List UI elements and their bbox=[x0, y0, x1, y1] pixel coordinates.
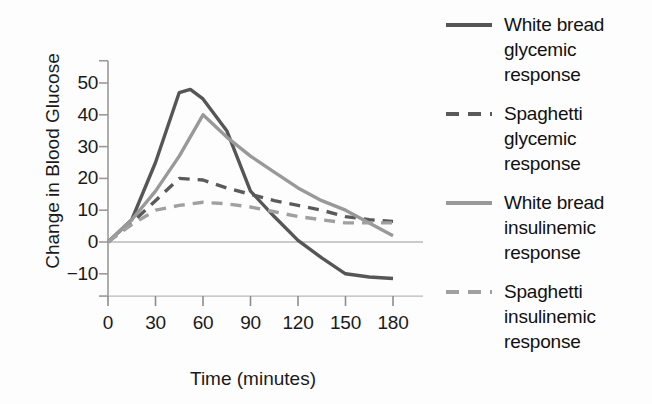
legend-swatch-solid-line-icon bbox=[446, 14, 492, 36]
y-tick-label: 10 bbox=[30, 200, 98, 219]
y-tick-label: 30 bbox=[30, 137, 98, 156]
legend-swatch-solid-line-icon bbox=[446, 192, 492, 214]
legend-item-4[interactable]: Spaghetti insulinemic response bbox=[446, 279, 652, 354]
series-line-1 bbox=[108, 89, 393, 278]
y-axis-title: Change in Blood Glucose bbox=[42, 11, 64, 311]
y-tick-label: 20 bbox=[30, 168, 98, 187]
legend-item-1[interactable]: White bread glycemic response bbox=[446, 12, 652, 87]
x-tick-label: 180 bbox=[363, 313, 423, 332]
y-tick-label: 0 bbox=[30, 232, 98, 251]
legend-item-3[interactable]: White bread insulinemic response bbox=[446, 190, 652, 265]
legend-label: White bread insulinemic response bbox=[504, 190, 604, 265]
y-tick-label: −10 bbox=[30, 264, 98, 283]
plot-area: −1001020304050 0306090120150180 Time (mi… bbox=[0, 0, 430, 404]
y-tick-label: 50 bbox=[30, 73, 98, 92]
legend-swatch-dashed-line-icon bbox=[446, 103, 492, 125]
y-tick-label: 40 bbox=[30, 105, 98, 124]
legend-swatch-dashed-line-icon bbox=[446, 281, 492, 303]
legend-label: Spaghetti insulinemic response bbox=[504, 279, 596, 354]
legend-label: Spaghetti glycemic response bbox=[504, 101, 583, 176]
legend-item-2[interactable]: Spaghetti glycemic response bbox=[446, 101, 652, 176]
legend-label: White bread glycemic response bbox=[504, 12, 604, 87]
series-line-4 bbox=[108, 202, 393, 242]
x-axis-title: Time (minutes) bbox=[108, 368, 398, 390]
chart-figure: −1001020304050 0306090120150180 Time (mi… bbox=[0, 0, 652, 404]
chart-legend: White bread glycemic responseSpaghetti g… bbox=[446, 12, 652, 368]
